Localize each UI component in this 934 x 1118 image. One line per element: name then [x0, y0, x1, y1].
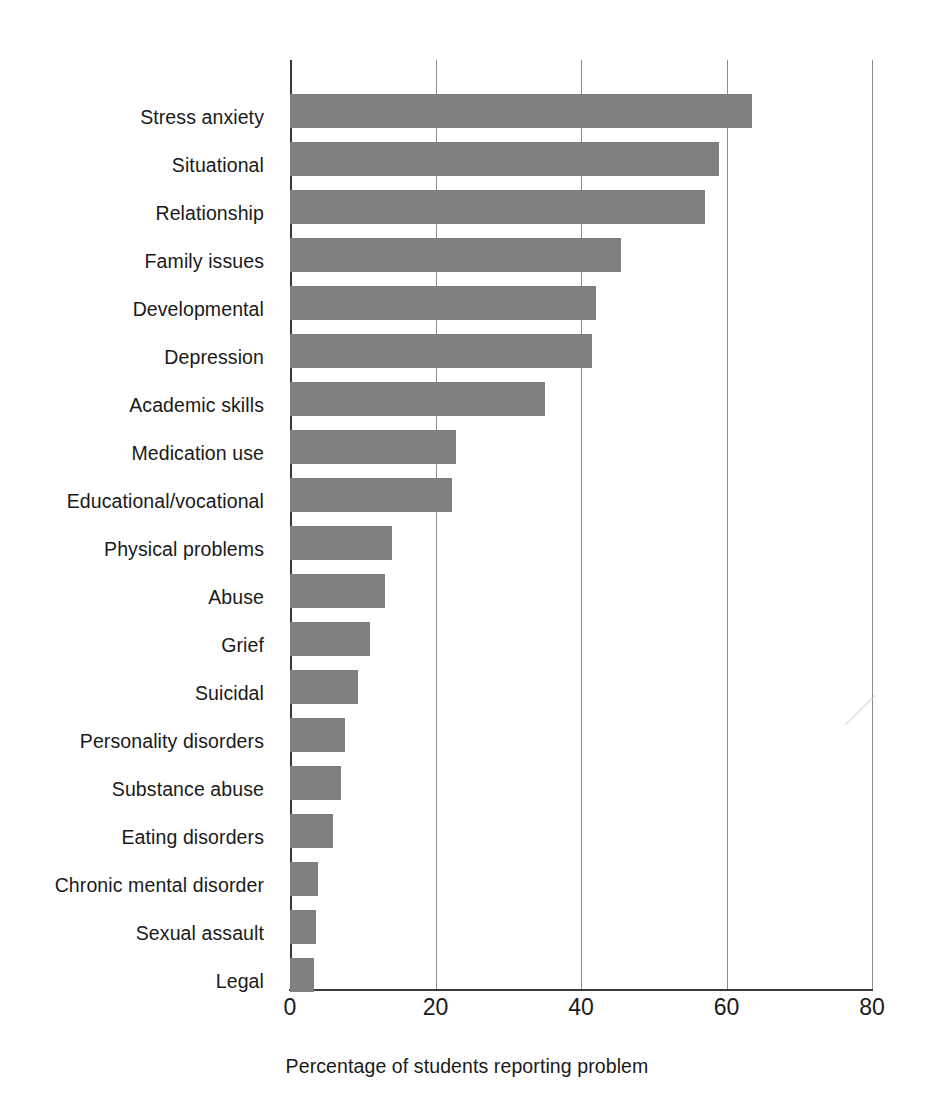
category-label-row: Legal	[0, 958, 276, 1006]
bar-row	[290, 814, 874, 862]
bar	[290, 958, 314, 992]
category-label: Suicidal	[195, 684, 264, 704]
category-label: Personality disorders	[80, 732, 264, 752]
category-label-row: Physical problems	[0, 526, 276, 574]
x-tick-label-40: 40	[568, 996, 594, 1019]
bar-row	[290, 238, 874, 286]
category-label: Academic skills	[129, 396, 264, 416]
bar	[290, 910, 316, 944]
bar-row	[290, 190, 874, 238]
category-label-row: Medication use	[0, 430, 276, 478]
bar-row	[290, 94, 874, 142]
bar	[290, 334, 592, 368]
bar-row	[290, 142, 874, 190]
x-tick-label-60: 60	[714, 996, 740, 1019]
bar	[290, 478, 452, 512]
x-axis-title: Percentage of students reporting problem	[0, 1055, 934, 1078]
x-tick-label-0: 0	[284, 996, 297, 1019]
bar	[290, 142, 719, 176]
category-label-row: Situational	[0, 142, 276, 190]
bar	[290, 766, 341, 800]
bar	[290, 238, 621, 272]
bar-row	[290, 334, 874, 382]
bar-chart-figure: Stress anxietySituationalRelationshipFam…	[0, 0, 934, 1118]
category-label: Stress anxiety	[140, 108, 264, 128]
category-label: Developmental	[133, 300, 264, 320]
bar	[290, 286, 596, 320]
category-label: Situational	[172, 156, 264, 176]
category-label: Abuse	[208, 588, 264, 608]
bar-row	[290, 382, 874, 430]
category-label: Sexual assault	[136, 924, 264, 944]
category-label-row: Chronic mental disorder	[0, 862, 276, 910]
category-label-row: Depression	[0, 334, 276, 382]
category-label-row: Developmental	[0, 286, 276, 334]
category-label-row: Stress anxiety	[0, 94, 276, 142]
category-label-row: Substance abuse	[0, 766, 276, 814]
bar-row	[290, 526, 874, 574]
x-tick-label-20: 20	[423, 996, 449, 1019]
category-label: Substance abuse	[112, 780, 264, 800]
bar	[290, 574, 385, 608]
category-label-row: Sexual assault	[0, 910, 276, 958]
bar-row	[290, 862, 874, 910]
category-label-row: Relationship	[0, 190, 276, 238]
bar-row	[290, 622, 874, 670]
category-label-row: Abuse	[0, 574, 276, 622]
bar-series	[290, 94, 874, 990]
bar	[290, 94, 752, 128]
bar-row	[290, 718, 874, 766]
category-label-row: Family issues	[0, 238, 276, 286]
category-label: Eating disorders	[121, 828, 264, 848]
category-label: Depression	[164, 348, 264, 368]
category-label: Grief	[221, 636, 264, 656]
bar-row	[290, 430, 874, 478]
category-label: Relationship	[155, 204, 264, 224]
bar-row	[290, 478, 874, 526]
category-axis-labels: Stress anxietySituationalRelationshipFam…	[0, 94, 276, 990]
bar	[290, 382, 545, 416]
bar-row	[290, 766, 874, 814]
bar	[290, 526, 392, 560]
category-label: Physical problems	[104, 540, 264, 560]
category-label: Legal	[216, 972, 264, 992]
category-label: Chronic mental disorder	[55, 876, 264, 896]
bar-row	[290, 286, 874, 334]
category-label-row: Grief	[0, 622, 276, 670]
x-tick-label-80: 80	[859, 996, 885, 1019]
category-label: Family issues	[145, 252, 264, 272]
bar-row	[290, 910, 874, 958]
category-label-row: Suicidal	[0, 670, 276, 718]
bar-row	[290, 670, 874, 718]
bar	[290, 718, 345, 752]
bar	[290, 190, 705, 224]
bar	[290, 670, 358, 704]
category-label-row: Academic skills	[0, 382, 276, 430]
x-axis-tick-labels: 020406080	[290, 996, 872, 1032]
category-label: Medication use	[131, 444, 264, 464]
bar	[290, 862, 318, 896]
bar	[290, 814, 333, 848]
category-label: Educational/vocational	[67, 492, 264, 512]
bar	[290, 622, 370, 656]
bar	[290, 430, 456, 464]
bar-row	[290, 574, 874, 622]
category-label-row: Educational/vocational	[0, 478, 276, 526]
category-label-row: Eating disorders	[0, 814, 276, 862]
category-label-row: Personality disorders	[0, 718, 276, 766]
